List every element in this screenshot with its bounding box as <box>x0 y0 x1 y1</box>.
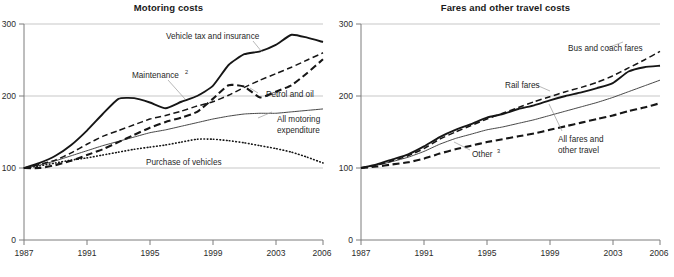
y-tick-label-100: 100 <box>2 163 16 173</box>
leader-all-fares <box>549 104 562 131</box>
x-tick-label-1987: 1987 <box>15 248 34 258</box>
x-tick-label-2006: 2006 <box>313 248 332 258</box>
series-line-bus-and-coach-fares <box>361 51 660 168</box>
series-label-all-motoring-line1: All motoring <box>277 115 321 124</box>
series-label-purchase-of-vehicles: Purchase of vehicles <box>146 158 222 167</box>
series-label-all-fares-line1: All fares and <box>558 135 604 144</box>
series-label-petrol-and-oil: Petrol and oil <box>266 90 314 99</box>
series-line-vehicle-tax-and-insurance <box>24 35 323 168</box>
series-label-vehicle-tax-and-insurance: Vehicle tax and insurance <box>166 32 260 41</box>
x-tick-label-1991: 1991 <box>415 248 434 258</box>
y-tick-label-300: 300 <box>2 19 16 29</box>
y-tick-label-0: 0 <box>11 235 16 245</box>
y-tick-label-0: 0 <box>348 235 353 245</box>
series-label-bus-and-coach-fares: Bus and coach fares <box>568 44 643 53</box>
x-tick-label-2003: 2003 <box>267 248 286 258</box>
motoring-costs-plot: 300 200 100 0 1987 1991 1995 1999 2003 2… <box>0 0 337 277</box>
y-tick-label-200: 200 <box>339 91 353 101</box>
x-tick-label-1999: 1999 <box>541 248 560 258</box>
two-panel-line-chart-figure: Motoring costs 300 200 100 0 <box>0 0 674 277</box>
series-label-maintenance: Maintenance <box>132 71 179 80</box>
series-label-all-fares-line2: other travel <box>558 146 599 155</box>
series-label-other-superscript: 3 <box>497 148 500 154</box>
x-tick-label-2006: 2006 <box>650 248 669 258</box>
series-label-all-motoring-line2: expenditure <box>277 126 320 135</box>
x-tick-label-1999: 1999 <box>204 248 223 258</box>
x-tick-label-2003: 2003 <box>604 248 623 258</box>
series-label-other: Other <box>472 150 493 159</box>
fares-and-other-travel-costs-plot: 300 200 100 0 1987 1991 1995 1999 2003 2… <box>337 0 674 277</box>
x-tick-label-1995: 1995 <box>478 248 497 258</box>
series-label-maintenance-superscript: 2 <box>185 69 188 75</box>
leader-vehicle-tax <box>253 41 262 52</box>
x-tick-label-1987: 1987 <box>352 248 371 258</box>
series-label-rail-fares: Rail fares <box>505 81 540 90</box>
y-tick-label-100: 100 <box>339 163 353 173</box>
panel-fares-and-other-travel-costs: Fares and other travel costs 300 200 100… <box>337 0 674 277</box>
panel-motoring-costs: Motoring costs 300 200 100 0 <box>0 0 337 277</box>
y-tick-label-300: 300 <box>339 19 353 29</box>
x-tick-label-1991: 1991 <box>78 248 97 258</box>
x-tick-label-1995: 1995 <box>141 248 160 258</box>
y-tick-label-200: 200 <box>2 91 16 101</box>
